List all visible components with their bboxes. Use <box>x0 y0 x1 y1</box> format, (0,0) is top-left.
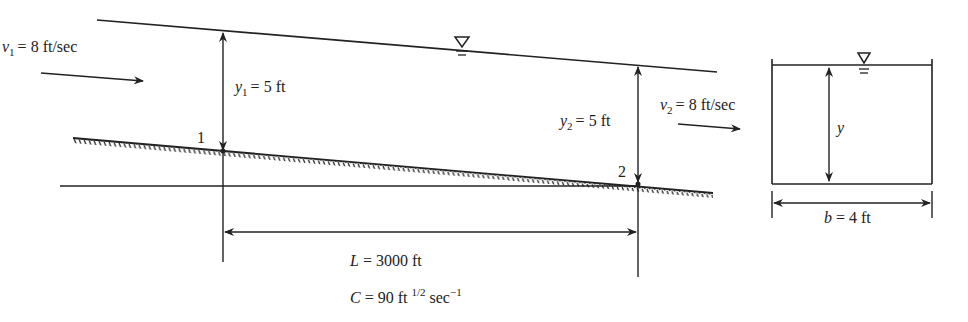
chezy-coefficient-label: C= 90 ft1/2sec−1 <box>350 286 462 306</box>
velocity1-label: v1= 8 ft/sec <box>2 38 77 58</box>
rectangular-cross-section: y b= 4 ft <box>772 53 932 226</box>
width-label: b= 4 ft <box>824 209 871 226</box>
flow-arrow-1 <box>41 73 143 81</box>
channel-flow-diagram: 1 2 v1= 8 ft/sec y1= 5 ft y2= 5 ft v2= 8… <box>0 0 968 322</box>
free-surface-triangle-icon <box>455 37 469 55</box>
water-surface-line <box>97 20 717 72</box>
point1-marker <box>221 149 226 154</box>
length-label: L= 3000 ft <box>349 252 422 269</box>
section-depth-label: y <box>835 119 845 137</box>
free-surface-triangle-icon <box>858 53 870 73</box>
channel-bed <box>73 138 713 198</box>
point2-label: 2 <box>618 163 626 180</box>
depth1-label: y1= 5 ft <box>233 78 286 98</box>
flow-arrow-2 <box>678 124 740 129</box>
point2-marker <box>636 182 641 187</box>
velocity2-label: v2= 8 ft/sec <box>660 96 735 116</box>
depth2-label: y2= 5 ft <box>558 112 611 132</box>
longitudinal-profile: 1 2 v1= 8 ft/sec y1= 5 ft y2= 5 ft v2= 8… <box>2 20 740 306</box>
point1-label: 1 <box>197 129 205 146</box>
